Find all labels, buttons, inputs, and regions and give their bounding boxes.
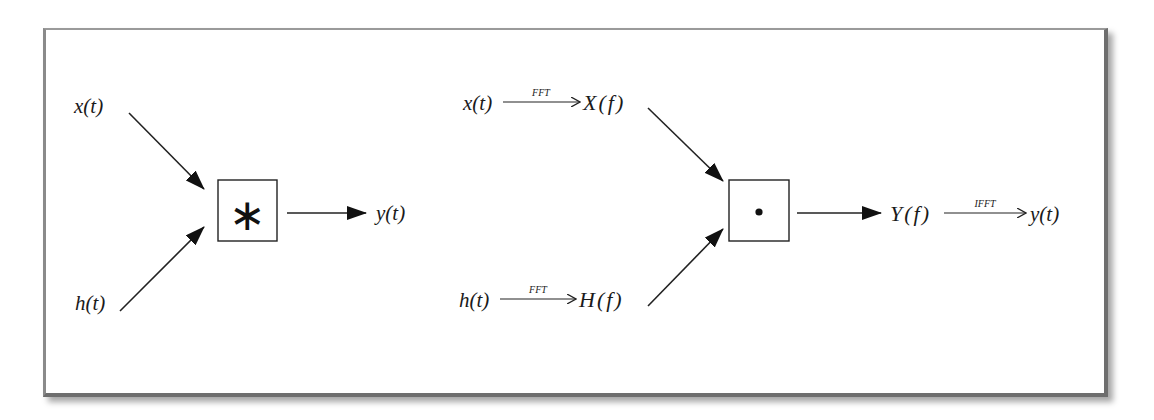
convolution-diagram: x(t) h(t) ∗ y(t) x(t) FFT X(f) h(t) FFT … [0,0,1154,420]
spectrum-H-f-label: H(f) [578,287,624,312]
input-x-t-label: x(t) [462,91,492,115]
output-y-t-label: y(t) [374,201,405,225]
multiply-dot-icon [755,208,762,215]
ifft-label: IFFT [973,198,997,209]
arrow-H-to-multiply [648,229,723,306]
convolution-asterisk-icon: ∗ [229,189,266,240]
arrow-h-to-convolution [120,227,204,311]
input-h-t-label: h(t) [459,288,489,312]
input-h-t-label: h(t) [75,291,105,315]
spectrum-Y-f-label: Y(f) [890,201,931,226]
fft-label-x: FFT [531,87,551,98]
fft-label-h: FFT [528,284,548,295]
arrow-X-to-multiply [648,108,723,181]
arrow-x-to-convolution [129,113,204,189]
output-y-t-label: y(t) [1028,202,1059,226]
frequency-domain-panel: x(t) FFT X(f) h(t) FFT H(f) Y(f) IFFT y(… [459,87,1059,312]
spectrum-X-f-label: X(f) [582,90,625,115]
time-domain-panel: x(t) h(t) ∗ y(t) [73,94,405,315]
input-x-t-label: x(t) [73,94,103,118]
